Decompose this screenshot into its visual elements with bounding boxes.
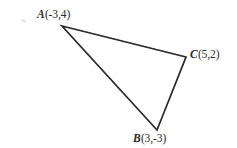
vertex-label-a: A(-3,4)	[37, 8, 70, 21]
vertex-name-c: C	[190, 48, 198, 60]
vertex-name-b: B	[133, 132, 141, 144]
triangle-drawing	[0, 0, 237, 148]
triangle-edge-ba	[62, 26, 157, 130]
vertex-label-c: C(5,2)	[190, 48, 219, 61]
vertex-coords-a: (-3,4)	[45, 8, 70, 20]
geometry-figure: A(-3,4) C(5,2) B(3,-3)	[0, 0, 237, 148]
triangle-edge-ac	[62, 26, 186, 57]
triangle-edge-cb	[157, 57, 186, 130]
vertex-name-a: A	[37, 8, 45, 20]
vertex-label-b: B(3,-3)	[133, 132, 166, 145]
vertex-coords-b: (3,-3)	[141, 132, 166, 144]
vertex-coords-c: (5,2)	[198, 48, 220, 60]
scan-artifact-speck	[24, 21, 26, 23]
